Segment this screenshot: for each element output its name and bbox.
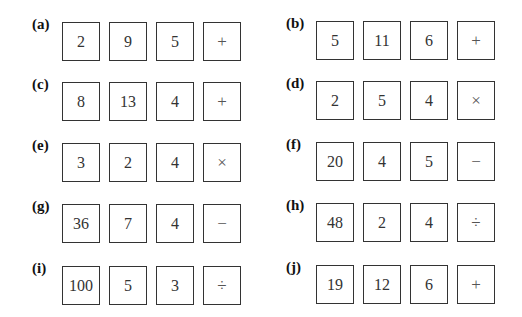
operation-box: × [457,81,495,120]
number-box: 12 [363,265,401,304]
number-box: 9 [109,22,147,61]
problem-label: (i) [32,260,46,277]
operation-box: + [203,22,241,61]
number-box: 3 [62,143,100,182]
number-box: 13 [109,82,147,121]
number-box: 5 [410,142,448,181]
problem-g: (g) 36 7 4 − [32,204,262,246]
number-box: 2 [363,203,401,242]
problem-c: (c) 8 13 4 + [32,82,262,124]
number-box: 20 [316,142,354,181]
operation-box: − [457,142,495,181]
number-box: 36 [62,204,100,243]
problem-label: (c) [32,76,49,93]
number-box: 48 [316,203,354,242]
problem-label: (g) [32,198,50,215]
problem-d: (d) 2 5 4 × [286,81,516,123]
problem-h: (h) 48 2 4 ÷ [286,203,516,245]
number-box: 4 [156,143,194,182]
number-box: 100 [62,266,100,305]
number-box: 6 [410,21,448,60]
number-box: 4 [363,142,401,181]
problem-label: (h) [286,197,304,214]
number-box: 5 [109,266,147,305]
operation-box: + [203,82,241,121]
number-box: 19 [316,265,354,304]
operation-box: ÷ [457,203,495,242]
problem-label: (e) [32,137,49,154]
number-box: 4 [156,204,194,243]
number-box: 6 [410,265,448,304]
operation-box: + [457,265,495,304]
problem-label: (f) [286,136,301,153]
problem-label: (j) [286,259,301,276]
number-box: 11 [363,21,401,60]
operation-box: + [457,21,495,60]
operation-box: ÷ [203,266,241,305]
problem-a: (a) 2 9 5 + [32,22,262,64]
problem-i: (i) 100 5 3 ÷ [32,266,262,308]
operation-box: − [203,204,241,243]
problem-label: (a) [32,16,50,33]
problem-label: (b) [286,15,304,32]
number-box: 2 [62,22,100,61]
problem-label: (d) [286,75,304,92]
number-box: 4 [156,82,194,121]
operation-box: × [203,143,241,182]
number-box: 4 [410,81,448,120]
number-box: 2 [109,143,147,182]
number-box: 7 [109,204,147,243]
problem-e: (e) 3 2 4 × [32,143,262,185]
number-box: 5 [363,81,401,120]
problem-j: (j) 19 12 6 + [286,265,516,307]
problem-b: (b) 5 11 6 + [286,21,516,63]
number-box: 2 [316,81,354,120]
number-box: 5 [156,22,194,61]
number-box: 3 [156,266,194,305]
problem-f: (f) 20 4 5 − [286,142,516,184]
number-box: 4 [410,203,448,242]
number-box: 8 [62,82,100,121]
number-box: 5 [316,21,354,60]
